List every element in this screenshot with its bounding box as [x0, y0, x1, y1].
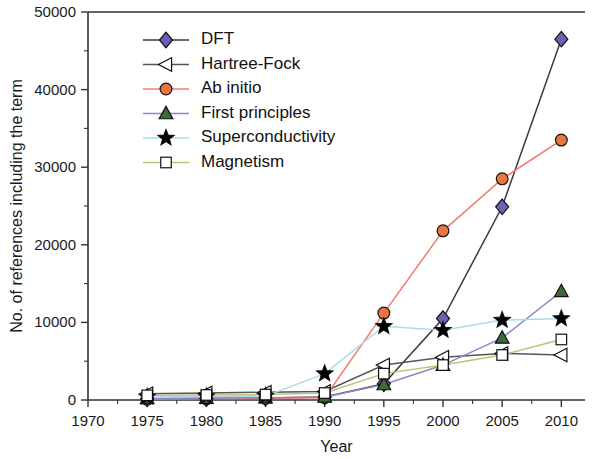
- data-point-magnetism-2005: [497, 350, 508, 361]
- data-point-first-principles-2010: [555, 284, 569, 296]
- data-point-superconductivity-2010: [553, 310, 569, 325]
- legend-item-superconductivity: Superconductivity: [143, 127, 336, 146]
- legend-marker-superconductivity: [158, 130, 174, 145]
- x-axis-tick-label: 1970: [71, 412, 104, 429]
- y-axis-tick-label: 50000: [34, 3, 76, 20]
- legend-item-first-principles: First principles: [143, 103, 311, 122]
- y-axis-title: No. of references including the term: [8, 79, 25, 332]
- data-point-ab-initio-2005: [496, 173, 508, 185]
- y-axis-tick-label: 40000: [34, 81, 76, 98]
- series-line-first-principles: [147, 291, 561, 398]
- data-point-dft-2010: [555, 31, 568, 47]
- y-axis-tick-label: 20000: [34, 236, 76, 253]
- x-axis-tick-label: 1990: [308, 412, 341, 429]
- legend-label: Hartree-Fock: [201, 54, 301, 73]
- y-axis-tick-label: 0: [68, 391, 76, 408]
- legend-marker-hartree-fock: [159, 58, 172, 72]
- legend-marker-ab-initio: [160, 83, 172, 95]
- x-axis-tick-label: 1975: [130, 412, 163, 429]
- x-axis-tick-label: 1995: [367, 412, 400, 429]
- line-chart: 0100002000030000400005000019701975198019…: [0, 0, 593, 459]
- legend-label: Ab initio: [201, 78, 261, 97]
- series-markers-first-principles: [140, 284, 568, 403]
- x-axis-tick-label: 1985: [249, 412, 282, 429]
- x-axis-tick-label: 2000: [426, 412, 459, 429]
- legend-marker-first-principles: [159, 106, 173, 118]
- data-point-hartree-fock-2010: [554, 348, 567, 362]
- legend-marker-dft: [159, 32, 172, 48]
- data-point-magnetism-1980: [201, 390, 212, 401]
- data-point-dft-2005: [496, 199, 509, 215]
- data-point-first-principles-2005: [495, 331, 509, 343]
- legend-label: First principles: [201, 103, 311, 122]
- data-point-ab-initio-2000: [437, 225, 449, 237]
- chart-axes: 0100002000030000400005000019701975198019…: [34, 3, 585, 429]
- legend-item-ab-initio: Ab initio: [143, 78, 261, 97]
- legend-item-hartree-fock: Hartree-Fock: [143, 54, 301, 73]
- legend-label: DFT: [201, 29, 234, 48]
- legend-item-magnetism: Magnetism: [143, 152, 284, 171]
- data-point-magnetism-1975: [142, 390, 153, 401]
- legend-item-dft: DFT: [143, 29, 234, 48]
- data-point-ab-initio-2010: [555, 134, 567, 146]
- data-point-magnetism-1985: [260, 389, 271, 400]
- y-axis-tick-label: 10000: [34, 313, 76, 330]
- chart-legend: DFTHartree-FockAb initioFirst principles…: [143, 29, 336, 171]
- chart-container: 0100002000030000400005000019701975198019…: [0, 0, 593, 459]
- y-axis-tick-label: 30000: [34, 158, 76, 175]
- data-point-magnetism-2010: [556, 334, 567, 345]
- x-axis-title: Year: [320, 438, 353, 455]
- series-markers-ab-initio: [141, 134, 567, 405]
- axis-frame: [88, 12, 585, 400]
- x-axis-tick-label: 2010: [545, 412, 578, 429]
- x-axis-tick-label: 2005: [485, 412, 518, 429]
- data-point-magnetism-1990: [319, 388, 330, 399]
- legend-label: Superconductivity: [201, 127, 336, 146]
- data-point-magnetism-2000: [438, 360, 449, 371]
- data-point-superconductivity-1990: [317, 365, 333, 380]
- data-point-magnetism-1995: [379, 368, 390, 379]
- legend-label: Magnetism: [201, 152, 284, 171]
- x-axis-tick-label: 1980: [190, 412, 223, 429]
- legend-marker-magnetism: [161, 157, 172, 168]
- data-point-superconductivity-2005: [494, 312, 510, 327]
